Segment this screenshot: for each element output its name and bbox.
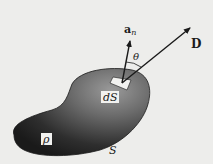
- angle-arc: [126, 62, 141, 67]
- field-vector-label: D: [191, 37, 201, 51]
- normal-vector-label: an: [124, 23, 136, 37]
- diagram-canvas: an D θ dS ρ S: [0, 0, 213, 164]
- surface-label: S: [109, 144, 117, 157]
- gauss-law-diagram: an D θ dS ρ S: [0, 0, 213, 164]
- charge-density-label: ρ: [42, 133, 50, 146]
- angle-label: θ: [133, 51, 139, 62]
- patch-label: dS: [103, 91, 118, 104]
